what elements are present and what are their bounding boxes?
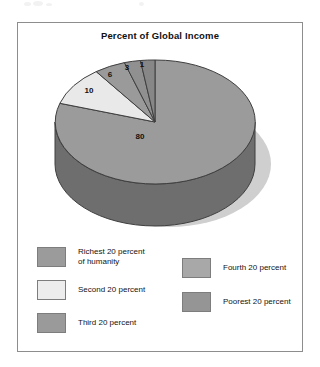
legend-swatch-richest bbox=[37, 247, 66, 267]
legend-label-second: Second 20 percent bbox=[78, 285, 145, 296]
pie-label-richest: 80 bbox=[130, 132, 150, 141]
pie-label-second: 10 bbox=[79, 86, 99, 95]
page-canvas: Percent of Global Income 80 10 6 3 1 bbox=[0, 0, 320, 367]
legend-swatch-third bbox=[37, 313, 66, 333]
legend-column-right: Fourth 20 percent Poorest 20 percent bbox=[182, 246, 307, 324]
legend-item-third[interactable]: Third 20 percent bbox=[37, 312, 177, 334]
legend-item-poorest[interactable]: Poorest 20 percent bbox=[182, 291, 307, 313]
chart-legend: Richest 20 percentof humanity Second 20 … bbox=[17, 246, 303, 346]
legend-label-richest-line2: of humanity bbox=[78, 257, 119, 266]
legend-label-poorest: Poorest 20 percent bbox=[223, 297, 291, 308]
scan-artifact bbox=[46, 3, 52, 6]
legend-label-richest-line1: Richest 20 percent bbox=[78, 247, 145, 256]
legend-label-richest: Richest 20 percentof humanity bbox=[78, 247, 145, 268]
legend-item-richest[interactable]: Richest 20 percentof humanity bbox=[37, 246, 177, 268]
chart-title: Percent of Global Income bbox=[0, 30, 320, 41]
scan-artifact bbox=[24, 2, 31, 6]
legend-swatch-poorest bbox=[182, 292, 211, 312]
legend-label-third: Third 20 percent bbox=[78, 318, 136, 329]
pie-chart-svg bbox=[17, 46, 303, 241]
legend-swatch-second bbox=[37, 280, 66, 300]
pie-label-poorest: 1 bbox=[136, 60, 148, 69]
pie-chart: 80 10 6 3 1 bbox=[17, 46, 303, 241]
legend-item-fourth[interactable]: Fourth 20 percent bbox=[182, 257, 307, 279]
legend-label-fourth: Fourth 20 percent bbox=[223, 263, 286, 274]
pie-label-third: 6 bbox=[104, 70, 116, 79]
legend-column-left: Richest 20 percentof humanity Second 20 … bbox=[37, 246, 177, 345]
scan-artifact bbox=[139, 2, 144, 6]
legend-swatch-fourth bbox=[182, 258, 211, 278]
pie-label-fourth: 3 bbox=[121, 63, 133, 72]
legend-item-second[interactable]: Second 20 percent bbox=[37, 279, 177, 301]
scan-artifact bbox=[33, 1, 43, 6]
